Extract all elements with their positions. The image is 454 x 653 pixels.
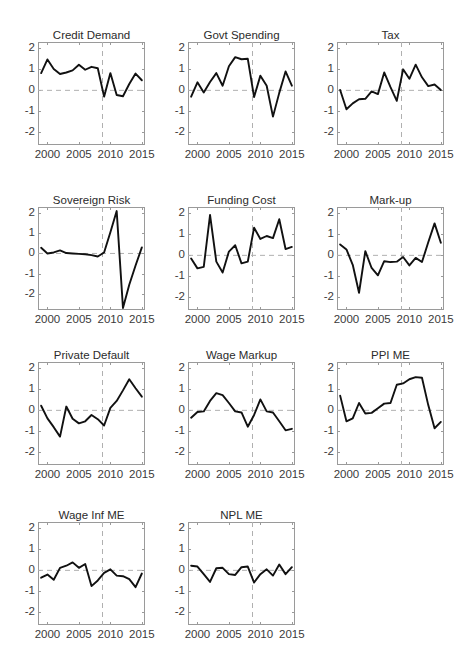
- xtick-label: 2005: [216, 313, 242, 325]
- panel-title-govt-spending: Govt Spending: [188, 28, 295, 42]
- ytick-label: 0: [179, 85, 185, 97]
- ytick-label: 1: [328, 64, 334, 76]
- xtick-label: 2005: [365, 148, 391, 160]
- xtick-label: 2000: [35, 148, 61, 160]
- series-overlay-sovereign-risk: [38, 207, 145, 310]
- panel-title-sovereign-risk: Sovereign Risk: [38, 193, 145, 207]
- ytick-label: 0: [328, 85, 334, 97]
- panel-title-private-default: Private Default: [38, 348, 145, 362]
- series-overlay-credit-demand: [38, 42, 145, 145]
- ytick-label: 2: [29, 43, 35, 55]
- ytick-label: 0: [328, 250, 334, 262]
- xtick-label: 2005: [216, 148, 242, 160]
- xtick-label: 2000: [334, 468, 360, 480]
- panel-private-default: Private Default210-1-22000200520102015: [38, 348, 145, 465]
- ytick-label: -2: [25, 447, 35, 459]
- ytick-label: -2: [175, 292, 185, 304]
- ytick-label: 0: [29, 85, 35, 97]
- ytick-label: 1: [179, 64, 185, 76]
- panel-npl-me: NPL ME210-1-22000200520102015: [188, 508, 295, 625]
- panel-funding-cost: Funding Cost210-1-22000200520102015: [188, 193, 295, 310]
- xtick-label: 2010: [248, 148, 274, 160]
- xtick-label: 2000: [334, 313, 360, 325]
- ytick-label: -1: [25, 106, 35, 118]
- ytick-label: -1: [175, 271, 185, 283]
- ytick-label: -1: [175, 106, 185, 118]
- xtick-label: 2015: [129, 628, 155, 640]
- xtick-label: 2010: [397, 148, 423, 160]
- xtick-label: 2015: [428, 148, 454, 160]
- xtick-label: 2015: [279, 148, 305, 160]
- panel-title-credit-demand: Credit Demand: [38, 28, 145, 42]
- ytick-label: -1: [175, 586, 185, 598]
- ytick-label: 2: [29, 523, 35, 535]
- ytick-label: 2: [328, 43, 334, 55]
- ytick-label: -2: [175, 127, 185, 139]
- xtick-label: 2005: [365, 468, 391, 480]
- xtick-label: 2015: [279, 313, 305, 325]
- ytick-label: 0: [29, 248, 35, 260]
- xtick-label: 2005: [216, 628, 242, 640]
- series-overlay-govt-spending: [188, 42, 295, 145]
- ytick-label: -1: [175, 426, 185, 438]
- series-overlay-funding-cost: [188, 207, 295, 310]
- ytick-label: 1: [29, 228, 35, 240]
- ytick-label: 1: [179, 544, 185, 556]
- panel-title-funding-cost: Funding Cost: [188, 193, 295, 207]
- xtick-label: 2000: [334, 148, 360, 160]
- ytick-label: 2: [179, 523, 185, 535]
- xtick-label: 2010: [397, 468, 423, 480]
- xtick-label: 2005: [66, 468, 92, 480]
- xtick-label: 2005: [365, 313, 391, 325]
- data-line-npl-me: [191, 564, 292, 582]
- ytick-label: 2: [328, 363, 334, 375]
- ytick-label: -1: [25, 426, 35, 438]
- series-overlay-wage-markup: [188, 362, 295, 465]
- ytick-label: 2: [179, 208, 185, 220]
- ytick-label: -1: [25, 586, 35, 598]
- xtick-label: 2015: [129, 468, 155, 480]
- ytick-label: 1: [179, 384, 185, 396]
- ytick-label: -1: [324, 426, 334, 438]
- xtick-label: 2010: [98, 313, 124, 325]
- panel-title-tax: Tax: [337, 28, 444, 42]
- ytick-label: 2: [29, 363, 35, 375]
- xtick-label: 2015: [279, 468, 305, 480]
- ytick-label: 1: [29, 384, 35, 396]
- data-line-wage-inf-me: [41, 562, 142, 587]
- series-overlay-npl-me: [188, 522, 295, 625]
- panel-wage-inf-me: Wage Inf ME210-1-22000200520102015: [38, 508, 145, 625]
- data-line-mark-up: [340, 223, 441, 292]
- xtick-label: 2010: [248, 628, 274, 640]
- ytick-label: 0: [29, 565, 35, 577]
- xtick-label: 2005: [66, 628, 92, 640]
- xtick-label: 2000: [185, 628, 211, 640]
- data-line-tax: [340, 65, 441, 110]
- panel-sovereign-risk: Sovereign Risk210-1-22000200520102015: [38, 193, 145, 310]
- xtick-label: 2000: [185, 148, 211, 160]
- data-line-wage-markup: [191, 393, 292, 430]
- ytick-label: 0: [179, 250, 185, 262]
- ytick-label: 2: [29, 207, 35, 219]
- data-line-credit-demand: [41, 59, 142, 96]
- xtick-label: 2010: [98, 628, 124, 640]
- xtick-label: 2015: [129, 313, 155, 325]
- xtick-label: 2005: [66, 148, 92, 160]
- data-line-ppi-me: [340, 377, 441, 428]
- panel-title-npl-me: NPL ME: [188, 508, 295, 522]
- ytick-label: 2: [328, 208, 334, 220]
- data-line-funding-cost: [191, 215, 292, 273]
- xtick-label: 2000: [35, 628, 61, 640]
- panel-wage-markup: Wage Markup210-1-22000200520102015: [188, 348, 295, 465]
- xtick-label: 2010: [98, 468, 124, 480]
- xtick-label: 2015: [428, 313, 454, 325]
- panel-credit-demand: Credit Demand210-1-22000200520102015: [38, 28, 145, 145]
- xtick-label: 2015: [279, 628, 305, 640]
- panel-govt-spending: Govt Spending210-1-22000200520102015: [188, 28, 295, 145]
- ytick-label: -2: [324, 127, 334, 139]
- ytick-label: 1: [29, 64, 35, 76]
- panel-title-wage-inf-me: Wage Inf ME: [38, 508, 145, 522]
- ytick-label: -1: [324, 271, 334, 283]
- xtick-label: 2005: [66, 313, 92, 325]
